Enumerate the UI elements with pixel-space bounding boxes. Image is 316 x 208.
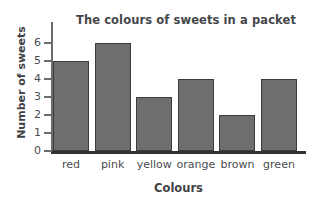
bar-chart-figure: The colours of sweets in a packet Number… [0, 0, 316, 208]
y-tick-label: 0 [25, 145, 41, 156]
y-tick-label: 6 [25, 37, 41, 48]
y-tick-mark [44, 60, 52, 62]
y-tick-label: 5 [25, 55, 41, 66]
y-tick-label: 1 [25, 127, 41, 138]
bar-red [53, 61, 89, 151]
x-tick-label-green: green [249, 158, 309, 171]
plot-area: 0123456 redpinkyelloworangebrowngreen [51, 22, 306, 153]
y-tick-label: 4 [25, 73, 41, 84]
x-axis-line [51, 151, 306, 154]
x-axis-title: Colours [51, 181, 306, 195]
y-tick-mark [44, 150, 52, 152]
y-tick-mark [44, 42, 52, 44]
y-tick-mark [44, 114, 52, 116]
y-tick-label: 2 [25, 109, 41, 120]
y-tick-mark [44, 78, 52, 80]
bar-brown [219, 115, 255, 151]
y-tick-label: 3 [25, 91, 41, 102]
bar-green [261, 79, 297, 151]
bar-yellow [136, 97, 172, 151]
y-tick-mark [44, 132, 52, 134]
bar-orange [178, 79, 214, 151]
y-tick-mark [44, 96, 52, 98]
bar-pink [95, 43, 131, 151]
